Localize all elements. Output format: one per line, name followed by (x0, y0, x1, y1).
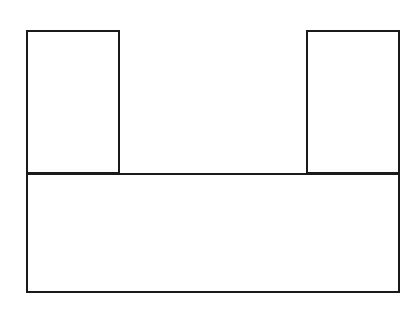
right-upper-block (306, 30, 400, 174)
left-upper-block (26, 30, 120, 174)
diagram-canvas (0, 0, 419, 326)
base-block (26, 173, 400, 293)
